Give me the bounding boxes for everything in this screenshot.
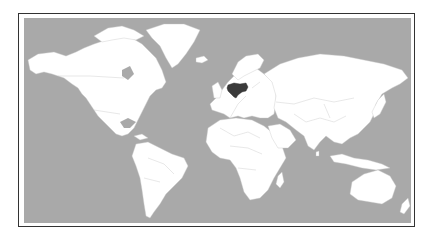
south-america [132,142,188,218]
sri-lanka [316,151,319,156]
iceland [196,56,208,63]
new-zealand [400,198,410,214]
world-map-svg [24,18,411,223]
world-map: Ukraine [24,18,411,223]
southeast-asia-islands [330,154,390,170]
australia [350,170,396,204]
british-isles [212,82,222,98]
north-america [28,36,166,136]
madagascar [276,172,284,188]
caribbean [134,134,148,140]
